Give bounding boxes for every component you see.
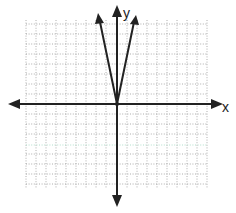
x-axis-left-arrow-icon xyxy=(8,99,20,109)
x-axis-label: x xyxy=(222,99,229,115)
y-axis-up-arrow-icon xyxy=(112,5,122,17)
graph-right-arrow-icon xyxy=(130,15,139,25)
y-axis-label: y xyxy=(123,5,130,21)
vertex-point xyxy=(115,102,119,106)
graph-left-arrow-icon xyxy=(95,13,104,24)
y-axis-down-arrow-icon xyxy=(112,195,122,207)
coordinate-plane: x y xyxy=(0,0,236,213)
